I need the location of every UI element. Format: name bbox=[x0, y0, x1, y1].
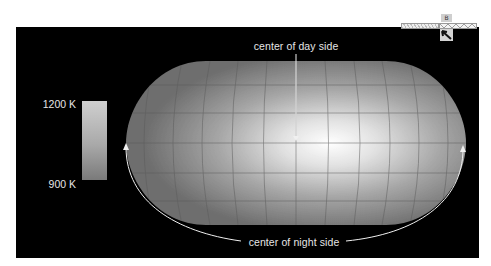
night-side-label: center of night side bbox=[248, 236, 340, 248]
colorbar-max-label: 1200 K bbox=[26, 98, 76, 110]
cursor-arrow-icon[interactable] bbox=[440, 29, 453, 41]
colorbar-min-label: 900 K bbox=[26, 178, 76, 190]
hatched-strip bbox=[401, 23, 439, 29]
day-side-label: center of day side bbox=[252, 40, 340, 52]
figure-panel: center of day side center of night side … bbox=[16, 27, 479, 258]
widget-tab[interactable]: B bbox=[441, 14, 452, 22]
temperature-colorbar bbox=[82, 101, 107, 180]
